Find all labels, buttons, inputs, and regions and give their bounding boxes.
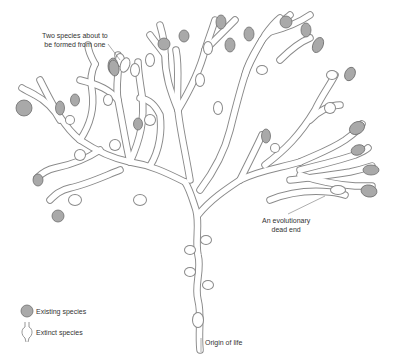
existing-species-icon — [20, 304, 34, 318]
annotation-dead-end-line1: An evolutionary — [262, 216, 310, 225]
pointer-dead-end — [288, 196, 325, 214]
annotation-two-species-line2: be formed from one — [42, 40, 108, 49]
annotation-dead-end: An evolutionary dead end — [262, 216, 310, 234]
legend-extinct: Extinct species — [20, 322, 83, 342]
legend-existing-label: Existing species — [36, 308, 86, 315]
legend-existing: Existing species — [20, 304, 86, 318]
extinct-species-icon — [20, 322, 34, 342]
evolutionary-tree-diagram — [0, 0, 396, 356]
annotation-dead-end-line2: dead end — [262, 225, 310, 234]
tree-branches — [22, 15, 372, 350]
legend-extinct-label: Extinct species — [36, 329, 83, 336]
annotation-two-species-line1: Two species about to — [42, 31, 108, 40]
annotation-two-species: Two species about to be formed from one — [42, 31, 108, 49]
annotation-origin-of-life: Origin of life — [205, 338, 242, 347]
